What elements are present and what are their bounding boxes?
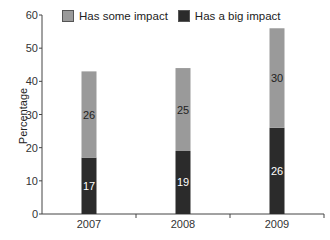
legend: Has some impact Has a big impact — [62, 10, 291, 22]
x-tick-label: 2009 — [265, 218, 289, 230]
stacked-bar-chart: 0102030405060172620071925200826302009 Pe… — [0, 0, 330, 240]
legend-label-big-impact: Has a big impact — [195, 10, 281, 22]
y-axis-label: Percentage — [17, 81, 29, 151]
bar-value-label: 26 — [83, 109, 95, 121]
y-tick-label: 50 — [26, 42, 38, 54]
legend-item-big-impact: Has a big impact — [178, 10, 281, 22]
y-tick-label: 60 — [26, 9, 38, 21]
x-tick-label: 2008 — [171, 218, 195, 230]
bar-value-label: 26 — [271, 165, 283, 177]
y-tick-label: 10 — [26, 175, 38, 187]
bar-value-label: 17 — [83, 180, 95, 192]
y-tick-label: 0 — [32, 208, 38, 220]
bar-value-label: 19 — [177, 176, 189, 188]
legend-label-some-impact: Has some impact — [79, 10, 168, 22]
plot-area: 0102030405060172620071925200826302009 — [0, 0, 330, 240]
legend-swatch-some-impact — [62, 10, 74, 22]
bar-value-label: 30 — [271, 72, 283, 84]
legend-item-some-impact: Has some impact — [62, 10, 168, 22]
bar-value-label: 25 — [177, 104, 189, 116]
x-tick-label: 2007 — [77, 218, 101, 230]
legend-swatch-big-impact — [178, 10, 190, 22]
